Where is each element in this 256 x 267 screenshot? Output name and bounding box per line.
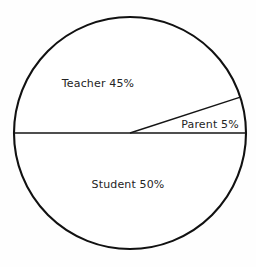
pie-chart-canvas [0,0,256,267]
pie-label-student: Student 50% [92,179,165,190]
pie-label-teacher: Teacher 45% [62,78,134,89]
pie-label-parent: Parent 5% [181,119,239,130]
pie-chart-figure: Teacher 45% Parent 5% Student 50% [0,0,256,267]
pie-slice-student [14,133,246,249]
